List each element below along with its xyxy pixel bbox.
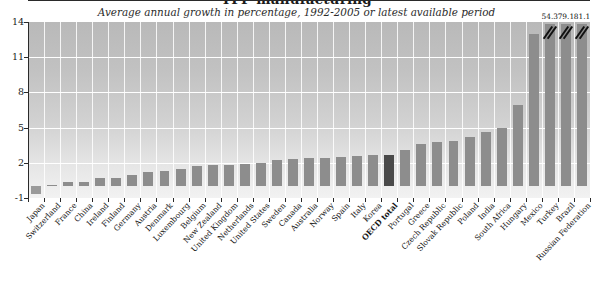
y-tick-mark <box>24 22 29 23</box>
axis-break-mark <box>545 25 555 41</box>
x-tick-mark <box>445 198 446 202</box>
bar <box>416 144 426 186</box>
x-tick-mark <box>462 198 463 202</box>
x-tick-mark <box>60 198 61 202</box>
bar <box>304 158 314 186</box>
x-tick-mark <box>173 198 174 202</box>
x-tick-mark <box>429 198 430 202</box>
bar <box>336 157 346 186</box>
x-tick-mark <box>510 198 511 202</box>
bar <box>481 132 491 186</box>
bar <box>63 182 73 187</box>
bar <box>256 163 266 186</box>
x-tick-mark <box>253 198 254 202</box>
x-tick-mark <box>542 198 543 202</box>
x-tick-mark <box>189 198 190 202</box>
y-tick-mark <box>24 163 29 164</box>
x-tick-mark <box>590 198 591 202</box>
x-tick-mark <box>237 198 238 202</box>
x-tick-mark <box>92 198 93 202</box>
bar <box>561 24 571 186</box>
bar <box>320 158 330 186</box>
x-tick-mark <box>365 198 366 202</box>
bar <box>143 172 153 186</box>
x-tick-mark <box>478 198 479 202</box>
bar <box>208 165 218 186</box>
x-tick-mark <box>140 198 141 202</box>
x-tick-mark <box>108 198 109 202</box>
bar <box>352 156 362 187</box>
bar <box>192 166 202 186</box>
x-tick-mark <box>221 198 222 202</box>
bar <box>224 165 234 186</box>
x-tick-mark <box>574 198 575 202</box>
x-tick-mark <box>333 198 334 202</box>
x-tick-mark <box>317 198 318 202</box>
bar <box>529 34 539 187</box>
bar <box>545 24 555 186</box>
axis-break-mark <box>561 25 571 41</box>
x-tick-mark <box>558 198 559 202</box>
bar <box>577 24 587 186</box>
bar <box>240 164 250 186</box>
bar <box>513 105 523 186</box>
bar <box>176 169 186 187</box>
bar <box>111 178 121 186</box>
x-tick-mark <box>76 198 77 202</box>
y-tick-mark <box>24 57 29 58</box>
bar <box>95 178 105 186</box>
bar <box>31 186 41 194</box>
chart-figure: TFP manufacturing Average annual growth … <box>0 0 593 291</box>
bar <box>47 185 57 186</box>
x-axis-baseline <box>28 0 590 1</box>
x-tick-mark <box>413 198 414 202</box>
bar <box>400 150 410 186</box>
x-tick-mark <box>526 198 527 202</box>
x-tick-mark <box>285 198 286 202</box>
x-tick-mark <box>349 198 350 202</box>
x-tick-mark <box>156 198 157 202</box>
x-tick-mark <box>124 198 125 202</box>
x-tick-mark <box>381 198 382 202</box>
bar <box>288 159 298 186</box>
bar <box>432 142 442 187</box>
bar <box>79 182 89 187</box>
bar <box>497 128 507 187</box>
bar <box>449 141 459 187</box>
x-tick-mark <box>301 198 302 202</box>
x-tick-mark <box>269 198 270 202</box>
axis-break-mark <box>577 25 587 41</box>
bar <box>272 160 282 186</box>
bar <box>127 175 137 187</box>
x-tick-mark <box>44 198 45 202</box>
x-tick-mark <box>397 198 398 202</box>
x-tick-mark <box>205 198 206 202</box>
x-tick-mark <box>28 198 29 202</box>
y-tick-mark <box>24 128 29 129</box>
bar <box>160 171 170 186</box>
bar <box>465 137 475 186</box>
bar <box>384 155 394 187</box>
x-tick-mark <box>494 198 495 202</box>
bar <box>368 155 378 187</box>
y-axis-line <box>28 22 29 198</box>
y-tick-mark <box>24 92 29 93</box>
